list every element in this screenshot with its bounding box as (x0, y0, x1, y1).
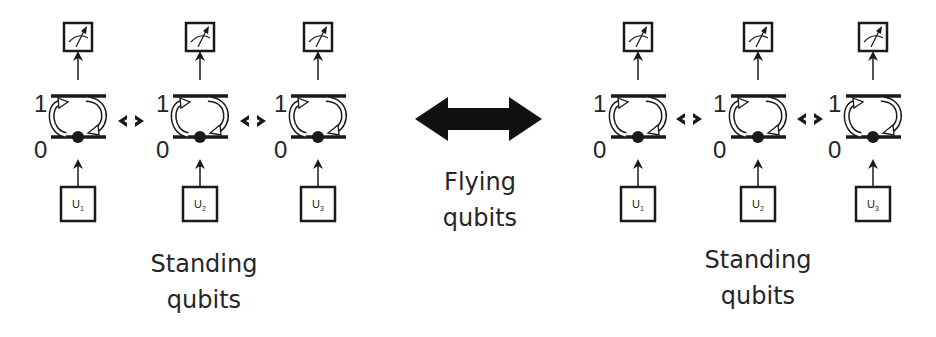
level-1-label: 1 (34, 90, 47, 117)
level-1-label: 1 (156, 90, 169, 117)
qubit-unit: 1 0 U1 (34, 23, 106, 221)
qubit-unit: 1 0 U3 (274, 23, 346, 221)
right-caption-line1: Standing (694, 242, 822, 278)
left-standing-qubits-group: 1 0 U1 1 0 U2 1 0 U3 (34, 23, 346, 221)
qubit-unit: 1 0 U2 (156, 23, 228, 221)
level-1-label: 1 (713, 90, 726, 117)
meter-icon (846, 23, 901, 221)
level-0-label: 0 (34, 136, 47, 163)
qubit-unit: 1 0 U1 (593, 23, 666, 221)
left-caption: Standing qubits (140, 246, 268, 318)
coupling-double-arrow-icon (118, 115, 144, 127)
meter-icon (51, 23, 106, 221)
coupling-double-arrow-icon (797, 113, 823, 125)
meter-icon (173, 23, 228, 221)
center-caption-line1: Flying (418, 164, 542, 200)
center-caption: Flying qubits (418, 164, 542, 236)
qubit-unit: 1 0 U3 (828, 23, 901, 221)
meter-icon (291, 23, 346, 221)
level-1-label: 1 (274, 90, 287, 117)
coupling-double-arrow-icon (240, 115, 266, 127)
flying-qubits-link (415, 97, 542, 141)
right-caption: Standing qubits (694, 242, 822, 314)
level-0-label: 0 (593, 136, 606, 163)
center-caption-line2: qubits (418, 200, 542, 236)
qubit-unit: 1 0 U2 (713, 23, 786, 221)
level-0-label: 0 (156, 136, 169, 163)
level-1-label: 1 (593, 90, 606, 117)
left-caption-line1: Standing (140, 246, 268, 282)
level-1-label: 1 (828, 90, 841, 117)
meter-icon (731, 23, 786, 221)
right-standing-qubits-group: 1 0 U1 1 0 U2 1 0 U3 (593, 23, 901, 221)
level-0-label: 0 (274, 136, 287, 163)
left-caption-line2: qubits (140, 282, 268, 318)
coupling-double-arrow-icon (676, 113, 702, 125)
big-double-arrow-icon (415, 97, 542, 141)
meter-icon (611, 23, 666, 221)
level-0-label: 0 (713, 136, 726, 163)
level-0-label: 0 (828, 136, 841, 163)
right-caption-line2: qubits (694, 278, 822, 314)
